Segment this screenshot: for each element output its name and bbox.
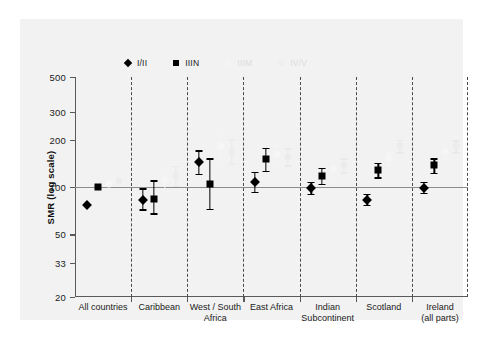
data-point-marker <box>330 165 337 172</box>
error-bar-cap <box>284 148 291 149</box>
data-point-marker <box>116 178 123 185</box>
data-point-marker <box>453 143 460 150</box>
y-axis-tick-label: 100 <box>50 182 66 193</box>
x-axis-line <box>75 296 468 297</box>
error-bar-cap <box>196 174 203 175</box>
error-bar-cap <box>397 152 404 153</box>
data-point-marker <box>263 156 270 163</box>
data-point-marker <box>340 162 347 169</box>
category-label-line: East Africa <box>250 302 293 313</box>
error-bar-cap <box>139 188 146 189</box>
error-bar-cap <box>453 152 460 153</box>
y-axis-tick: 300 <box>70 112 75 113</box>
error-bar-cap <box>319 184 326 185</box>
category-label-line: Subcontinent <box>301 313 354 324</box>
data-point-marker <box>161 177 168 184</box>
error-bar-cap <box>228 139 235 140</box>
data-point-marker <box>250 177 260 187</box>
error-bar-cap <box>172 186 179 187</box>
legend-label-iiim: IIIM <box>237 58 252 68</box>
error-bar-cap <box>139 209 146 210</box>
data-point-marker <box>228 148 235 155</box>
y-axis-tick-label: 500 <box>50 72 66 83</box>
x-axis-tick <box>412 297 413 302</box>
error-bar-cap <box>217 159 224 160</box>
error-bar-cap <box>150 213 157 214</box>
circle-marker-icon <box>225 60 231 66</box>
error-bar-cap <box>196 150 203 151</box>
error-bar-cap <box>263 171 270 172</box>
legend-item-i-ii: I/II <box>125 58 147 68</box>
x-axis-category-label: Ireland(all parts) <box>421 302 459 323</box>
error-bar-cap <box>273 163 280 164</box>
error-bar-cap <box>386 165 393 166</box>
category-label-line: All countries <box>79 302 128 313</box>
error-bar-cap <box>161 191 168 192</box>
square-marker-icon <box>173 60 179 66</box>
x-axis-tick <box>356 297 357 302</box>
x-axis-category-label: All countries <box>79 302 128 313</box>
error-bar-cap <box>375 177 382 178</box>
legend-label-i-ii: I/II <box>137 58 147 68</box>
error-bar-cap <box>340 172 347 173</box>
data-point-marker <box>442 148 449 155</box>
data-point-marker <box>284 154 291 161</box>
y-axis-tick: 500 <box>70 77 75 78</box>
y-axis-tick-label: 33 <box>55 257 66 268</box>
data-point-marker <box>431 162 438 169</box>
y-axis-tick: 20 <box>70 297 75 298</box>
error-bar-cap <box>228 164 235 165</box>
category-label-line: Caribbean <box>138 302 180 313</box>
y-axis-tick: 200 <box>70 140 75 141</box>
y-axis-tick: 50 <box>70 234 75 235</box>
error-bar-cap <box>340 158 347 159</box>
error-bar-cap <box>319 168 326 169</box>
error-bar-cap <box>206 158 213 159</box>
data-point-marker <box>397 143 404 150</box>
error-bar-cap <box>364 205 371 206</box>
x-axis-tick <box>187 297 188 302</box>
category-label-line: Indian <box>301 302 354 313</box>
x-axis-category-label: West / SouthAfrica <box>190 302 241 323</box>
error-bar-cap <box>252 192 259 193</box>
legend-item-iiin: IIIN <box>173 58 199 68</box>
error-bar-cap <box>263 148 270 149</box>
error-bar-cap <box>252 172 259 173</box>
error-bar-cap <box>206 209 213 210</box>
category-label-line: Africa <box>190 313 241 324</box>
data-point-marker <box>319 172 326 179</box>
error-bar-cap <box>442 158 449 159</box>
error-bar-cap <box>330 176 337 177</box>
legend-item-iiim: IIIM <box>225 58 252 68</box>
error-bar-cap <box>453 140 460 141</box>
legend-label-iv-v: IV/V <box>290 58 307 68</box>
data-point-marker <box>82 200 92 210</box>
y-axis-tick-label: 200 <box>50 134 66 145</box>
data-point-marker <box>386 155 393 162</box>
x-axis-category-label: East Africa <box>250 302 293 313</box>
diamond-marker-icon <box>124 59 132 67</box>
data-point-marker <box>217 142 224 149</box>
error-bar-cap <box>308 194 315 195</box>
data-point-marker <box>172 172 179 179</box>
data-point-marker <box>362 195 372 205</box>
error-bar-cap <box>284 165 291 166</box>
category-label-line: (all parts) <box>421 313 459 324</box>
reference-line <box>75 187 468 188</box>
data-point-marker <box>419 183 429 193</box>
chart-panel: I/II IIIN IIIM IV/V SMR (log scale) 5003… <box>20 19 463 320</box>
x-axis-category-label: Scotland <box>366 302 401 313</box>
data-point-marker <box>194 157 204 167</box>
x-axis-category-label: IndianSubcontinent <box>301 302 354 323</box>
error-bar-cap <box>273 145 280 146</box>
y-axis-tick-label: 50 <box>55 229 66 240</box>
error-bar-cap <box>431 158 438 159</box>
circle-marker-icon <box>278 60 284 66</box>
data-point-marker <box>105 181 112 188</box>
y-axis-tick: 33 <box>70 263 75 264</box>
data-point-marker <box>138 195 148 205</box>
category-label-line: Ireland <box>421 302 459 313</box>
error-bar-cap <box>150 180 157 181</box>
category-label-line: West / South <box>190 302 241 313</box>
category-label-line: Scotland <box>366 302 401 313</box>
